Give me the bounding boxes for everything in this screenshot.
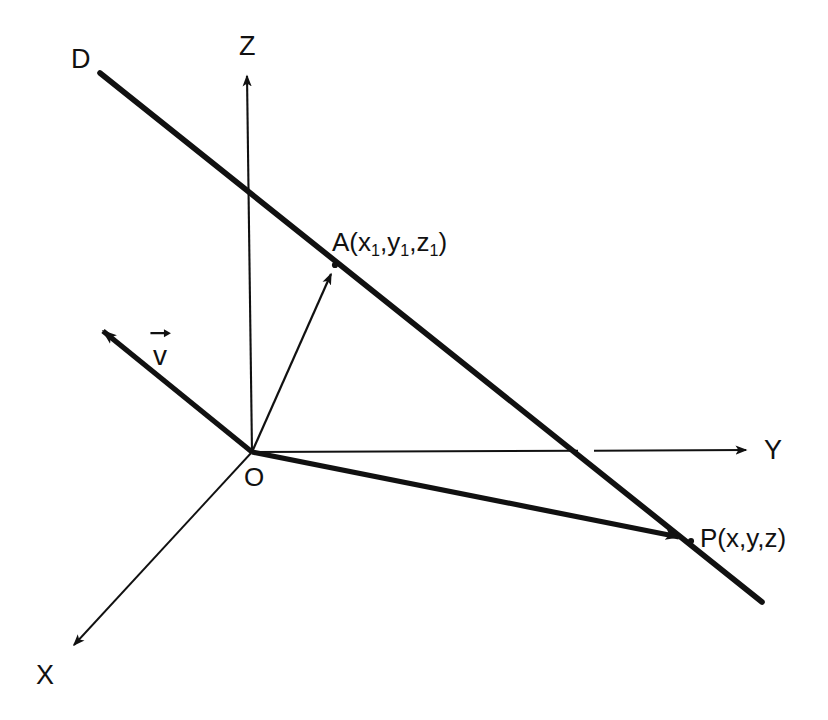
vector-v-label: v	[153, 340, 167, 370]
vector-v-glyph-wrapper: v	[153, 340, 167, 370]
point-a-marker	[332, 262, 338, 268]
y-axis-line-right	[594, 450, 746, 451]
point-a-label: A(x1,y1,z1)	[332, 229, 447, 258]
origin-label: O	[244, 464, 264, 490]
y-axis-line-left	[252, 451, 578, 452]
z-axis-line	[247, 76, 252, 452]
line-d-stroke	[100, 73, 762, 602]
vector-op-line	[252, 452, 679, 537]
x-axis-line	[74, 452, 252, 645]
diagram-canvas: D Z Y X O A(x1,y1,z1) P(x,y,z) v	[0, 0, 828, 720]
point-a-subscript-x: 1	[371, 241, 380, 259]
vector-v-letter: v	[153, 340, 167, 371]
z-axis-label: Z	[239, 33, 256, 60]
vector-v-line	[103, 331, 252, 452]
line-d-label: D	[71, 46, 91, 73]
vector-oa-line	[252, 274, 331, 452]
x-axis-label: X	[36, 662, 54, 689]
point-p-label: P(x,y,z)	[700, 525, 786, 551]
point-p-marker	[688, 538, 694, 544]
diagram-vector-graphics	[0, 0, 828, 720]
point-a-subscript-y: 1	[400, 241, 409, 259]
y-axis-label: Y	[764, 437, 782, 464]
